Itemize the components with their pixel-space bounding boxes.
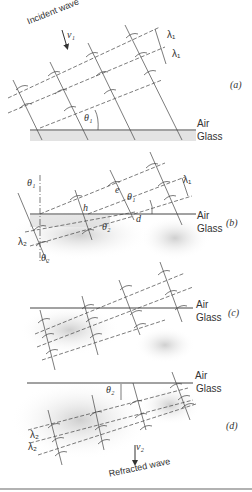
panel-c (20, 262, 195, 370)
point-h-label: h (83, 203, 88, 213)
refraction-diagram (0, 0, 252, 492)
glass-region (30, 131, 196, 141)
panel-a-tag: (a) (230, 79, 242, 90)
v2-label: v₂ (136, 442, 144, 452)
theta2-label-d: θ₂ (106, 385, 114, 395)
lambda1-label-bottom: λ₁ (172, 49, 180, 59)
air-label-a: Air (197, 119, 209, 129)
lambda1-label-b: λ₁ (183, 175, 191, 185)
theta1-label-b-left: θ₁ (27, 178, 35, 188)
theta1-label-b-right: θ₁ (127, 192, 135, 202)
air-label-d: Air (195, 371, 207, 381)
panel-b-tag: (b) (226, 217, 238, 228)
theta2-label-b-bottom: θ₂ (41, 253, 49, 263)
lambda2-label-d-bottom: λ₂ (28, 442, 37, 452)
lambda1-dimension (155, 29, 166, 64)
v1-label: v₁ (67, 30, 75, 40)
theta1-label-a: θ₁ (84, 113, 92, 123)
lambda1-label-top: λ₁ (167, 30, 175, 40)
point-e-label: e (115, 185, 119, 195)
panel-d (10, 372, 200, 465)
lambda2-label-d-top: λ₂ (30, 430, 39, 440)
air-label-b: Air (197, 211, 209, 221)
glass-label-b: Glass (197, 224, 223, 234)
glass-label-c: Glass (196, 313, 222, 323)
rays (13, 25, 182, 140)
point-d-label: d (136, 214, 141, 224)
lambda2-label-b: λ₂ (18, 237, 27, 247)
theta1-arc (150, 200, 152, 214)
glass-label-a: Glass (197, 132, 223, 142)
glass-label-d: Glass (196, 384, 222, 394)
theta2-label-b: θ₂ (102, 222, 110, 232)
panel-a (8, 25, 196, 141)
panel-d-tag: (d) (226, 420, 238, 431)
air-label-c: Air (196, 300, 208, 310)
theta1-arc (95, 110, 98, 130)
panel-c-tag: (c) (228, 307, 239, 318)
panel-b (10, 152, 210, 262)
